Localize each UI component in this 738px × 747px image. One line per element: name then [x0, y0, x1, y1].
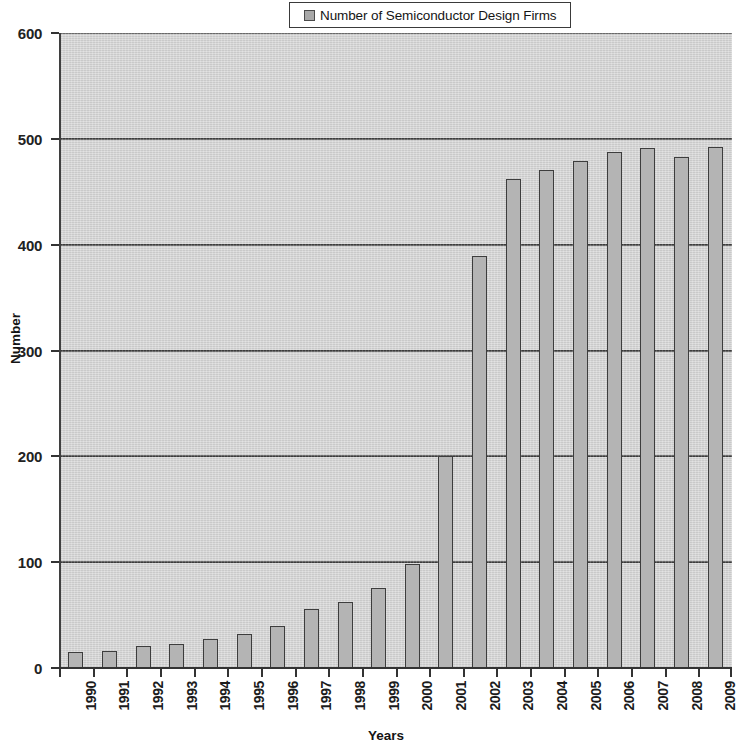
- x-tick-mark: [93, 669, 95, 677]
- x-tick-mark: [429, 669, 431, 677]
- y-axis-line: [59, 33, 61, 668]
- gridline-100: [59, 561, 732, 563]
- y-tick-mark: [51, 32, 59, 34]
- gridline-600: [59, 33, 732, 34]
- bar-2008: [674, 157, 689, 668]
- bar-1993: [169, 644, 184, 668]
- y-axis-title: Number: [8, 299, 23, 379]
- bar-1994: [203, 639, 218, 668]
- x-tick-mark: [631, 669, 633, 677]
- y-tick-label: 100: [0, 554, 42, 571]
- y-tick-label: 200: [0, 448, 42, 465]
- bar-2009: [708, 147, 723, 668]
- y-tick-mark: [51, 455, 59, 457]
- bar-1995: [237, 634, 252, 668]
- bar-1992: [136, 646, 151, 668]
- bar-1999: [371, 588, 386, 668]
- x-tick-mark: [59, 669, 61, 677]
- gridline-300: [59, 350, 732, 352]
- x-tick-mark: [362, 669, 364, 677]
- chart-legend: Number of Semiconductor Design Firms: [289, 2, 571, 28]
- x-axis-title: Years: [0, 728, 732, 743]
- x-tick-mark: [227, 669, 229, 677]
- x-tick-mark: [564, 669, 566, 677]
- gridline-400: [59, 244, 732, 246]
- x-tick-mark: [730, 669, 732, 677]
- bar-1996: [270, 626, 285, 668]
- bar-2001: [438, 456, 453, 668]
- x-tick-mark: [698, 669, 700, 677]
- bar-2002: [472, 256, 487, 668]
- plot-area: [59, 33, 732, 668]
- bar-2003: [506, 179, 521, 668]
- x-tick-mark: [396, 669, 398, 677]
- bar-2007: [640, 148, 655, 668]
- legend-label: Number of Semiconductor Design Firms: [320, 8, 556, 23]
- bar-1998: [338, 602, 353, 668]
- bar-1997: [304, 609, 319, 668]
- y-tick-label: 0: [0, 660, 42, 677]
- x-tick-mark: [295, 669, 297, 677]
- x-tick-mark: [463, 669, 465, 677]
- x-tick-mark: [597, 669, 599, 677]
- x-tick-mark: [665, 669, 667, 677]
- y-tick-mark: [51, 350, 59, 352]
- y-tick-mark: [51, 561, 59, 563]
- y-tick-mark: [51, 138, 59, 140]
- y-tick-mark: [51, 244, 59, 246]
- x-tick-mark: [126, 669, 128, 677]
- gridline-500: [59, 138, 732, 140]
- bar-1990: [68, 652, 83, 668]
- bar-2004: [539, 170, 554, 668]
- x-tick-mark: [530, 669, 532, 677]
- x-tick-mark: [496, 669, 498, 677]
- bar-2000: [405, 564, 420, 668]
- x-tick-mark: [160, 669, 162, 677]
- bar-2005: [573, 161, 588, 668]
- bar-2006: [607, 152, 622, 668]
- y-tick-label: 400: [0, 236, 42, 253]
- gridline-200: [59, 455, 732, 457]
- bar-1991: [102, 651, 117, 668]
- x-tick-mark: [328, 669, 330, 677]
- y-tick-mark: [51, 667, 59, 669]
- legend-swatch-icon: [304, 10, 315, 21]
- x-tick-mark: [261, 669, 263, 677]
- x-tick-mark: [194, 669, 196, 677]
- y-tick-label: 600: [0, 25, 42, 42]
- y-tick-label: 500: [0, 130, 42, 147]
